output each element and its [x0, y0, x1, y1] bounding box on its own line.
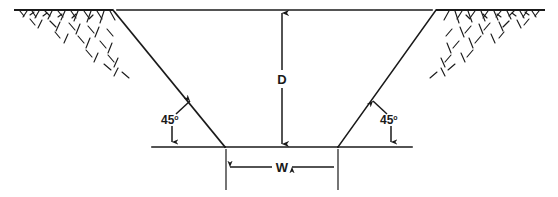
angle-leader-left — [172, 101, 190, 142]
width-label: W — [276, 160, 289, 175]
degree-symbol-right: o — [393, 114, 397, 121]
diagram-canvas: D 45o 45o W — [0, 0, 558, 197]
degree-symbol-left: o — [174, 114, 178, 121]
angle-label-left: 45o — [161, 113, 179, 127]
trench-cross-section-diagram: D 45o 45o W — [0, 0, 558, 197]
earth-hatching-right — [430, 11, 539, 78]
angle-left-value: 45 — [161, 113, 175, 127]
angle-right-value: 45 — [380, 113, 394, 127]
earth-hatching-left — [20, 11, 129, 78]
angle-label-right: 45o — [380, 113, 398, 127]
depth-label: D — [277, 72, 286, 87]
